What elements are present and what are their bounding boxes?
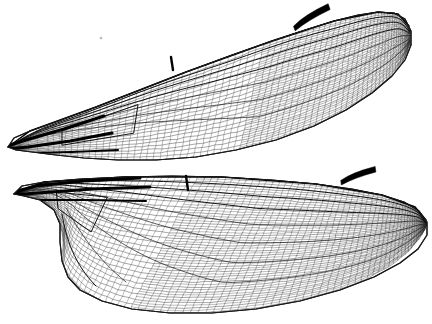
- illustration-root: [0, 0, 432, 324]
- dragonfly-wings-figure: [0, 0, 432, 324]
- scan-speck-artifact: [100, 37, 103, 40]
